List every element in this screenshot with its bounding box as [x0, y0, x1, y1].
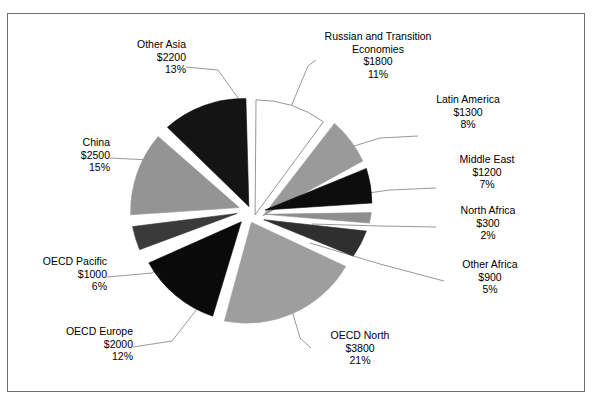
- pie-label-other-africa-percent: 5%: [448, 283, 532, 296]
- pie-label-latin-america: Latin America $1300 8%: [422, 93, 514, 131]
- pie-label-oecd-pacific-name: OECD Pacific: [0, 255, 107, 268]
- pie-label-oecd-pacific: OECD Pacific $1000 6%: [0, 255, 107, 293]
- pie-label-china-percent: 15%: [0, 161, 110, 174]
- pie-label-oecd-europe: OECD Europe $2000 12%: [2, 325, 133, 363]
- pie-label-oecd-europe-value: $2000: [2, 338, 133, 351]
- pie-label-china-name: China: [0, 136, 110, 149]
- pie-slices: [131, 99, 372, 324]
- pie-label-russian-value: $1800: [306, 55, 450, 68]
- pie-label-other-asia: Other Asia $2200 13%: [48, 38, 186, 76]
- pie-label-latin-america-name: Latin America: [422, 93, 514, 106]
- pie-label-oecd-europe-name: OECD Europe: [2, 325, 133, 338]
- pie-label-russian-transition-economies: Russian and Transition Economies $1800 1…: [306, 30, 450, 80]
- pie-label-north-africa-percent: 2%: [444, 229, 532, 242]
- pie-label-middle-east-percent: 7%: [443, 178, 531, 191]
- pie-label-middle-east-value: $1200: [443, 166, 531, 179]
- pie-label-north-africa-value: $300: [444, 217, 532, 230]
- pie-label-oecd-pacific-value: $1000: [0, 268, 107, 281]
- pie-label-middle-east: Middle East $1200 7%: [443, 153, 531, 191]
- leader-line-north-africa: [312, 224, 436, 227]
- pie-label-latin-america-percent: 8%: [422, 118, 514, 131]
- pie-label-oecd-north: OECD North $3800 21%: [317, 329, 403, 367]
- pie-label-oecd-pacific-percent: 6%: [0, 280, 107, 293]
- pie-label-russian-percent: 11%: [306, 68, 450, 81]
- pie-label-china: China $2500 15%: [0, 136, 110, 174]
- pie-label-other-asia-name: Other Asia: [48, 38, 186, 51]
- pie-label-other-africa: Other Africa $900 5%: [448, 258, 532, 296]
- pie-label-other-africa-value: $900: [448, 271, 532, 284]
- pie-label-latin-america-value: $1300: [422, 106, 514, 119]
- pie-label-oecd-north-percent: 21%: [317, 354, 403, 367]
- pie-label-north-africa: North Africa $300 2%: [444, 204, 532, 242]
- pie-label-china-value: $2500: [0, 149, 110, 162]
- pie-label-other-asia-percent: 13%: [48, 63, 186, 76]
- pie-label-russian-name-line2: Economies: [306, 43, 450, 56]
- pie-label-oecd-europe-percent: 12%: [2, 350, 133, 363]
- pie-label-oecd-north-name: OECD North: [317, 329, 403, 342]
- pie-label-other-africa-name: Other Africa: [448, 258, 532, 271]
- pie-label-other-asia-value: $2200: [48, 51, 186, 64]
- pie-label-north-africa-name: North Africa: [444, 204, 532, 217]
- pie-chart-figure: Other Asia $2200 13% China $2500 15% OEC…: [0, 0, 596, 403]
- pie-label-oecd-north-value: $3800: [317, 342, 403, 355]
- pie-label-russian-name-line1: Russian and Transition: [306, 30, 450, 43]
- pie-label-middle-east-name: Middle East: [443, 153, 531, 166]
